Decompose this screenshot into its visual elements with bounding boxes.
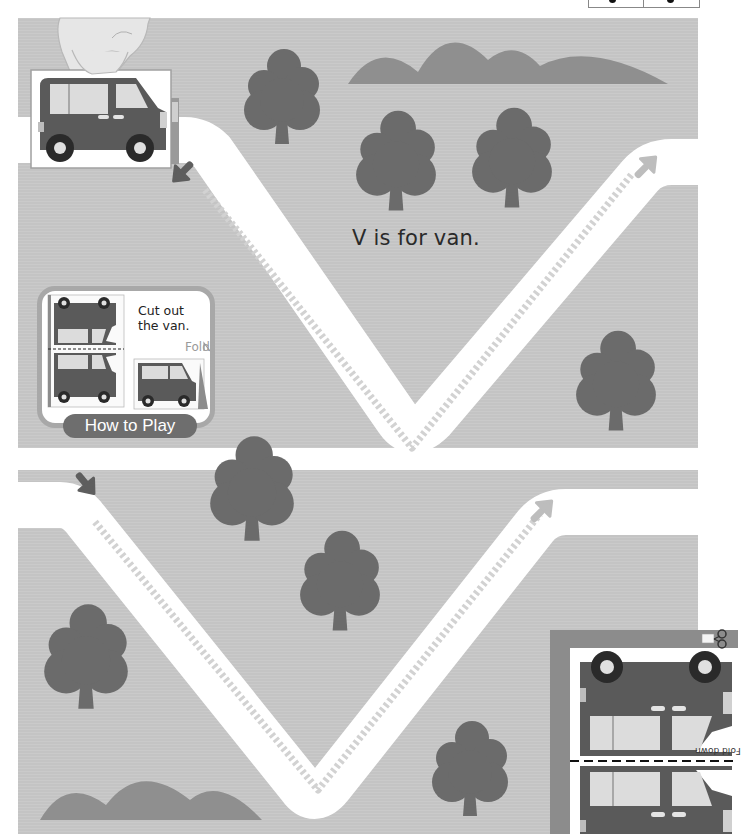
fold-down-label: Fold down	[695, 746, 741, 756]
header-dot-left	[609, 0, 616, 3]
tagline: V is for van.	[352, 226, 480, 250]
instruction-line-2: the van.	[138, 318, 189, 333]
instruction-line-1: Cut out	[138, 303, 189, 318]
cutout-van-sheet	[550, 630, 738, 834]
how-to-play-card: Cut out the van. Fold How to Play	[35, 286, 219, 442]
header-checkbox-pair	[588, 0, 700, 8]
header-dot-right	[667, 0, 674, 3]
header-divider	[643, 0, 644, 7]
how-to-play-instruction: Cut out the van.	[138, 303, 189, 333]
how-to-play-frame: Cut out the van. Fold	[37, 286, 215, 428]
how-to-play-title: How to Play	[63, 414, 197, 438]
fold-label: Fold	[185, 340, 210, 354]
